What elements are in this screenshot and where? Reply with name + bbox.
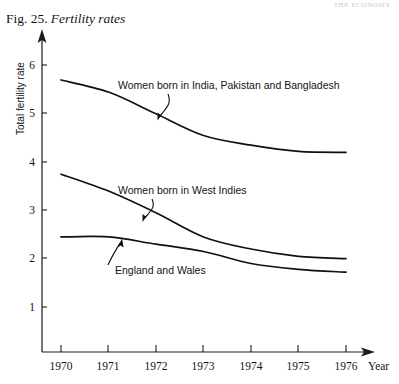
leader-arrowhead-england-wales (118, 239, 124, 248)
series-label-england-and-wales: England and Wales (115, 264, 206, 276)
y-tick-label-1: 1 (29, 301, 35, 313)
x-axis: 1970 1971 1972 1973 1974 1975 1976 Year (42, 345, 389, 372)
y-tick-label-4: 4 (29, 156, 35, 168)
x-tick-label-1973: 1973 (192, 360, 215, 372)
y-tick-label-5: 5 (29, 107, 35, 119)
y-tick-label-2: 2 (29, 252, 35, 264)
series-label-india-pakistan-bangladesh: Women born in India, Pakistan and Bangla… (118, 79, 340, 91)
x-tick-label-1972: 1972 (145, 360, 168, 372)
leader-arrowhead-west-indies (143, 214, 149, 222)
x-axis-title: Year (368, 360, 389, 372)
series-label-west-indies: Women born in West Indies (118, 184, 247, 196)
y-axis: 6 5 4 3 2 1 Total fertility rate (15, 29, 47, 352)
fertility-rates-chart: 6 5 4 3 2 1 Total fertility rate 1970 19… (0, 0, 399, 384)
figure-container: THE ECONOMY Fig. 25.Fertility rates 6 5 … (0, 0, 399, 384)
x-tick-label-1974: 1974 (240, 360, 263, 372)
x-tick-label-1971: 1971 (97, 360, 120, 372)
y-tick-label-3: 3 (29, 204, 35, 216)
x-tick-label-1975: 1975 (287, 360, 310, 372)
annotation-leaders (108, 94, 169, 265)
x-tick-label-1970: 1970 (50, 360, 73, 372)
y-tick-label-6: 6 (29, 59, 35, 71)
series-labels: Women born in India, Pakistan and Bangla… (115, 79, 340, 276)
x-tick-label-1976: 1976 (335, 360, 358, 372)
y-axis-title: Total fertility rate (15, 62, 26, 135)
series-lines (61, 80, 346, 272)
leader-line-india (160, 94, 169, 116)
